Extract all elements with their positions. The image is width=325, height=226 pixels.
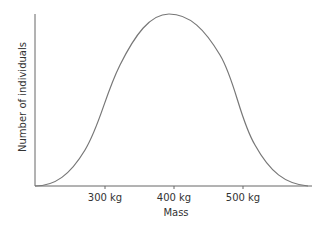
x-axis-title: Mass: [163, 207, 188, 218]
y-axis-title: Number of individuals: [17, 42, 28, 152]
x-tick-label-300: 300 kg: [88, 192, 122, 203]
x-tick-label-500: 500 kg: [226, 192, 260, 203]
chart-svg: 300 kg 400 kg 500 kg Mass Number of indi…: [0, 0, 325, 226]
x-tick-label-400: 400 kg: [157, 192, 191, 203]
distribution-chart: 300 kg 400 kg 500 kg Mass Number of indi…: [0, 0, 325, 226]
distribution-curve: [35, 14, 308, 186]
